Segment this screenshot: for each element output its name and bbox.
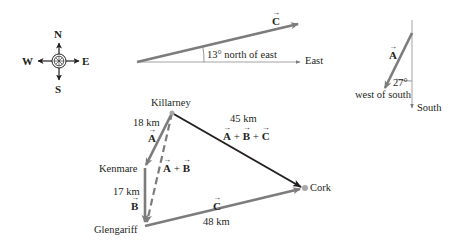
compass-west-label: W — [22, 56, 33, 67]
angle-27-label: 27° — [393, 78, 408, 89]
resultant-vector-label: A + B + C — [223, 131, 270, 142]
east-axis-label: East — [305, 56, 323, 67]
town-glengariff-label: Glengariff — [94, 225, 138, 236]
compass-north-label: N — [54, 29, 62, 40]
vector-a-label: A — [389, 50, 397, 61]
leg-c-vector-label: C — [213, 201, 221, 212]
leg-a-vector-label: A — [148, 133, 156, 144]
leg-c-distance: 48 km — [203, 217, 230, 228]
angle-13-label: 13° north of east — [207, 50, 277, 61]
sum-ab-label: A + B — [163, 163, 190, 174]
compass-east-label: E — [82, 56, 89, 67]
town-cork-label: Cork — [310, 183, 331, 194]
south-axis-label: South — [417, 103, 442, 114]
town-killarney-label: Killarney — [151, 98, 191, 109]
leg-b-vector-label: B — [131, 201, 138, 212]
vector-c-label: C — [272, 16, 280, 27]
cork-point — [302, 185, 308, 191]
west-of-south-label: west of south — [355, 90, 411, 101]
compass-south-label: S — [55, 84, 61, 95]
town-kenmare-label: Kenmare — [99, 164, 137, 175]
compass-rose-icon — [38, 43, 79, 80]
killarney-point — [170, 111, 175, 116]
